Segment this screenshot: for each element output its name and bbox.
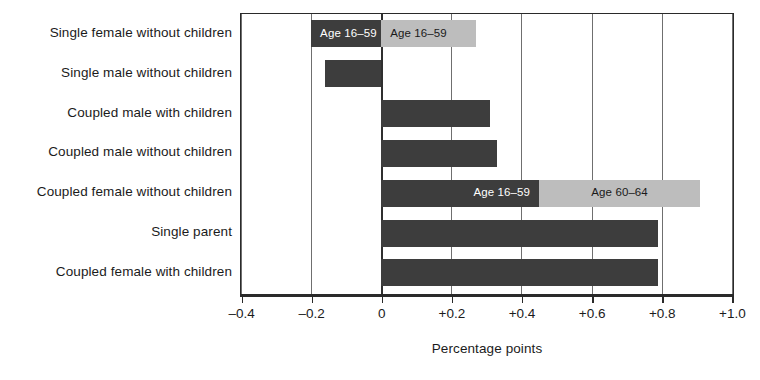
x-tick bbox=[382, 295, 383, 303]
gridline-neg0_2 bbox=[311, 14, 312, 294]
gridline-0_4 bbox=[521, 14, 522, 294]
x-tick bbox=[242, 295, 243, 303]
bar-value-label: Age 16–59 bbox=[320, 28, 377, 40]
category-label: Coupled male without children bbox=[0, 145, 232, 159]
category-label: Coupled male with children bbox=[0, 106, 232, 120]
x-tick bbox=[312, 295, 313, 303]
bar-segment bbox=[381, 100, 490, 127]
gridline-neg0_4 bbox=[241, 14, 242, 294]
x-tick bbox=[592, 295, 593, 303]
x-tick-label: +0.4 bbox=[509, 307, 536, 321]
bar-chart: Single female without childrenSingle mal… bbox=[0, 0, 760, 380]
bar-segment: Age 16–59 bbox=[311, 20, 381, 47]
x-tick-label: 0 bbox=[378, 307, 386, 321]
category-axis: Single female without childrenSingle mal… bbox=[0, 13, 232, 295]
x-tick bbox=[662, 295, 663, 303]
bar-segment bbox=[381, 140, 497, 167]
x-tick-label: +0.2 bbox=[439, 307, 466, 321]
bar-value-label: Age 16–59 bbox=[473, 187, 530, 199]
category-label: Coupled female without children bbox=[0, 185, 232, 199]
bar-segment: Age 16–59 bbox=[381, 20, 476, 47]
x-tick-label: +0.8 bbox=[649, 307, 676, 321]
bar-value-label: Age 16–59 bbox=[390, 28, 447, 40]
x-tick-label: +1.0 bbox=[719, 307, 746, 321]
x-axis-title: Percentage points bbox=[240, 341, 734, 356]
x-tick bbox=[732, 295, 733, 303]
category-label: Coupled female with children bbox=[0, 265, 232, 279]
bar-segment bbox=[381, 259, 658, 286]
x-tick-label: –0.4 bbox=[228, 307, 254, 321]
bar-segment bbox=[381, 220, 658, 247]
category-label: Single parent bbox=[0, 225, 232, 239]
x-tick bbox=[452, 295, 453, 303]
x-tick-label: +0.6 bbox=[579, 307, 606, 321]
bar-value-label: Age 60–64 bbox=[591, 187, 648, 199]
x-axis-line bbox=[240, 295, 734, 297]
category-label: Single female without children bbox=[0, 26, 232, 40]
plot-inner: Age 16–59Age 16–59Age 16–59Age 60–64 bbox=[241, 14, 733, 294]
bar-segment: Age 60–64 bbox=[539, 180, 700, 207]
gridline-1 bbox=[732, 14, 733, 294]
gridline-0_6 bbox=[592, 14, 593, 294]
plot-area: Age 16–59Age 16–59Age 16–59Age 60–64 bbox=[240, 13, 734, 295]
gridline-0_8 bbox=[662, 14, 663, 294]
bar-segment: Age 16–59 bbox=[381, 180, 539, 207]
x-tick-label: –0.2 bbox=[299, 307, 325, 321]
bar-segment bbox=[325, 60, 381, 87]
x-axis: –0.4–0.20+0.2+0.4+0.6+0.8+1.0 bbox=[240, 295, 734, 341]
x-tick bbox=[522, 295, 523, 303]
category-label: Single male without children bbox=[0, 66, 232, 80]
